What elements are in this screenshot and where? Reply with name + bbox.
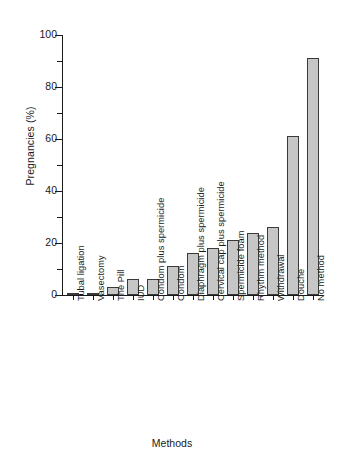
- x-tick: [113, 296, 114, 300]
- x-category-label: The Pill: [116, 270, 126, 301]
- x-tick: [73, 296, 74, 300]
- x-category-label: Cervical cap plus spermicide: [216, 181, 226, 301]
- y-tick-label: 60: [17, 133, 57, 144]
- y-tick-label: 100: [17, 29, 57, 40]
- x-tick: [193, 296, 194, 300]
- x-category-label: No method: [316, 255, 326, 301]
- x-tick: [253, 296, 254, 300]
- x-category-label: IUD: [136, 285, 146, 301]
- x-category-label: Condom plus spermicide: [156, 198, 166, 301]
- x-category-label: Rhythm method: [256, 235, 266, 301]
- x-category-label: Tubal ligation: [76, 245, 86, 301]
- x-tick: [273, 296, 274, 300]
- y-tick-label: 20: [17, 237, 57, 248]
- y-tick-label: 0: [17, 289, 57, 300]
- x-tick: [233, 296, 234, 300]
- x-category-label: Spermicide foam: [236, 230, 246, 301]
- x-tick: [213, 296, 214, 300]
- x-tick: [293, 296, 294, 300]
- bar-chart-figure: Pregnancies (%) 020406080100 Tubal ligat…: [0, 0, 344, 463]
- x-category-label: Douche: [296, 269, 306, 301]
- x-tick: [93, 296, 94, 300]
- x-tick: [153, 296, 154, 300]
- x-category-label: Withdrawal: [276, 255, 286, 301]
- x-category-label: Condom: [176, 266, 186, 301]
- y-tick-label: 80: [17, 81, 57, 92]
- x-category-label: Vasectomy: [96, 255, 106, 301]
- x-tick: [173, 296, 174, 300]
- x-tick: [133, 296, 134, 300]
- y-tick-label: 40: [17, 185, 57, 196]
- x-axis-title: Methods: [0, 437, 344, 449]
- x-tick: [313, 296, 314, 300]
- x-category-label: Diaphragm plus spermicide: [196, 187, 206, 301]
